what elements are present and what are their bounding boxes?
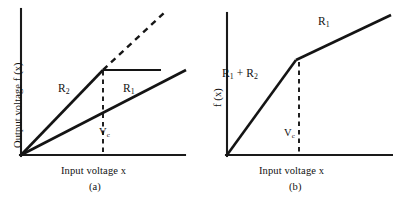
chart-b-label-vc-base: V: [284, 127, 292, 138]
chart-a-label-vc-base: V: [99, 126, 107, 137]
chart-a-x-axis-label: Input voltage x: [61, 166, 126, 177]
chart-b-label-vc: Vc: [284, 128, 295, 140]
chart-b-label-r2-sub: 2: [254, 72, 258, 81]
chart-a-y-axis-label: Output voltage f (x): [13, 62, 24, 148]
figure-pair: Output voltage f (x) Input voltage x (a)…: [0, 0, 393, 200]
chart-a-label-r1-sub: 1: [131, 87, 135, 96]
chart-a-label-r1: R1: [123, 83, 135, 96]
chart-a-label-vc: Vc: [99, 127, 110, 139]
chart-a-label-vc-sub: c: [107, 131, 110, 139]
chart-a-series-r2-extension: [103, 11, 166, 70]
chart-a-label-r1-base: R: [123, 82, 131, 94]
chart-b-label-r1-only-sub: 1: [326, 20, 330, 29]
chart-b-label-vc-sub: c: [292, 132, 295, 140]
chart-a-caption: (a): [89, 182, 101, 193]
chart-b-series-r1: [296, 15, 391, 60]
chart-b-y-axis-label: f (x): [213, 88, 224, 107]
chart-a-label-r2-sub: 2: [66, 87, 70, 96]
chart-b-label-r1-plus-r2: R1 + R2: [222, 68, 258, 81]
chart-b-label-plus: + R: [234, 67, 254, 79]
chart-b-caption: (b): [289, 182, 302, 193]
chart-a-label-r2: R2: [58, 83, 70, 96]
chart-b-x-axis-label: Input voltage x: [259, 166, 324, 177]
chart-panel-b: f (x) Input voltage x (b) R1 + R2 R1 Vc: [196, 0, 393, 200]
chart-b-label-r1: R1: [318, 16, 330, 29]
chart-panel-a: Output voltage f (x) Input voltage x (a)…: [0, 0, 197, 200]
chart-a-label-r2-base: R: [58, 82, 66, 94]
chart-b-label-r1-only-base: R: [318, 15, 326, 27]
chart-b-label-r1-base: R: [222, 67, 230, 79]
